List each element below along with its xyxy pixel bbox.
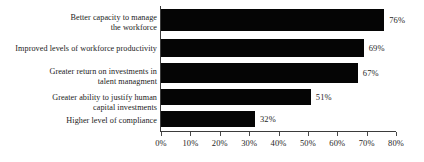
bar-value-label: 69% xyxy=(369,43,385,53)
x-axis-tick xyxy=(367,132,368,136)
x-axis-tick-label: 10% xyxy=(182,138,198,148)
x-axis-tick-label: 40% xyxy=(271,138,287,148)
category-label: Greater ability to justify human capital… xyxy=(52,93,157,113)
bar-value-label: 67% xyxy=(363,68,379,78)
x-axis-tick xyxy=(220,132,221,136)
x-axis-tick xyxy=(337,132,338,136)
x-axis-tick-label: 80% xyxy=(388,138,404,148)
x-axis-tick-label: 50% xyxy=(300,138,316,148)
category-label: Improved levels of workforce productivit… xyxy=(15,44,157,54)
category-label: Better capacity to manage the workforce xyxy=(71,13,158,33)
bar xyxy=(161,39,364,57)
bar xyxy=(161,111,255,127)
x-axis-tick xyxy=(161,132,162,136)
x-axis-tick xyxy=(308,132,309,136)
x-axis-tick-label: 30% xyxy=(241,138,257,148)
bar-value-label: 76% xyxy=(389,15,405,25)
x-axis-tick xyxy=(396,132,397,136)
bar xyxy=(161,9,384,31)
bar xyxy=(161,63,358,83)
x-axis-tick xyxy=(279,132,280,136)
x-axis-tick-label: 70% xyxy=(359,138,375,148)
x-axis-tick xyxy=(249,132,250,136)
category-label: Higher level of compliance xyxy=(66,116,157,126)
x-axis-tick xyxy=(190,132,191,136)
category-label: Greater return on investments in talent … xyxy=(49,67,157,87)
bar-chart: Better capacity to manage the workforce … xyxy=(0,0,424,162)
bar-value-label: 51% xyxy=(316,92,332,102)
bar-value-label: 32% xyxy=(260,114,276,124)
plot-area: Better capacity to manage the workforce … xyxy=(0,0,424,162)
x-axis-tick-label: 20% xyxy=(212,138,228,148)
x-axis-tick-label: 0% xyxy=(155,138,167,148)
bar xyxy=(161,89,311,105)
x-axis-tick-label: 60% xyxy=(329,138,345,148)
